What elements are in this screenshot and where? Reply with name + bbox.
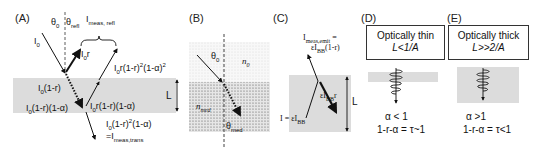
panel-d-alpha-label: α < 1: [385, 112, 408, 122]
panel-a-i0-1mr-1ma-label: I0(1-r)(1-α): [26, 103, 68, 113]
panel-c-emit-line2: εIBB(1-r): [311, 43, 340, 53]
panel-a-letter: (A): [15, 12, 30, 24]
panel-a-transmitted-label: I0(1-r)2(1-α): [106, 119, 151, 129]
panel-a-transmitted-ray: [86, 112, 95, 139]
panel-c-eps-ibb-r-label: εIBBr: [320, 91, 337, 101]
panel-a-theta0-label: θ0: [51, 17, 59, 27]
panel-d-letter: (D): [361, 12, 376, 24]
panel-b-n0-label: n0: [242, 56, 250, 66]
panel-b-nmed-label: nmed: [196, 101, 211, 111]
panel-c-i-eq-label: I = εIBB: [280, 114, 305, 124]
panel-d-graphics: [368, 68, 438, 103]
panel-a-i-meas-refl-label: Imeas, refl: [86, 14, 115, 24]
panel-c-emit-line1: Imeas,emit =: [303, 33, 337, 43]
panel-d-title: Optically thin: [367, 30, 444, 42]
panel-a-i0-label: I0: [34, 36, 40, 46]
panel-e-relation-label: 1-r-α = τ<1: [463, 125, 511, 135]
panel-a-graphics: [13, 12, 177, 139]
panel-a-reflected-ray: [66, 50, 80, 72]
panel-b-letter: (B): [189, 12, 204, 24]
panel-d-condition: L<1/A: [367, 42, 444, 54]
panel-d-header-box: Optically thin L<1/A: [366, 25, 445, 60]
panel-e-alpha-label: α >1: [466, 112, 486, 122]
panel-b-upper-medium: [189, 42, 270, 82]
panel-e-header-box: Optically thick L>>2/A: [448, 25, 529, 60]
panel-c-thickness-label: L: [352, 97, 358, 107]
panel-a-brace: [81, 36, 116, 46]
panel-b-graphics: [177, 34, 270, 147]
panel-a-thickness-label: L: [166, 91, 172, 101]
panel-b-theta0-label: θ0: [211, 51, 219, 61]
panel-e-title: Optically thick: [449, 30, 528, 42]
panel-a-i0r-1mr2-1ma2-label: I0r(1-r)2(1-α)2: [114, 63, 166, 73]
panel-a-incident-ray: [42, 33, 65, 73]
panel-d-relation-label: 1-r-α = τ~1: [377, 125, 425, 135]
panel-a-i0-1mr-label: I0(1-r): [38, 83, 61, 93]
panel-a-i0r-1mr-1ma-label: I0r(1-r)(1-α): [90, 101, 135, 111]
panel-d-thin-layer: [368, 72, 438, 82]
panel-a-theta-refl-label: θrefl: [66, 17, 79, 27]
panel-a-meas-trans-label: =Imeas,trans: [106, 131, 143, 141]
panel-e-letter: (E): [447, 12, 462, 24]
panel-e-condition: L>>2/A: [449, 42, 528, 54]
panel-e-graphics: [457, 67, 519, 103]
panel-a-i0r-label: I0r: [81, 49, 90, 59]
panel-c-letter: (C): [273, 12, 288, 24]
panel-b-theta-med-label: θmed: [226, 121, 243, 131]
